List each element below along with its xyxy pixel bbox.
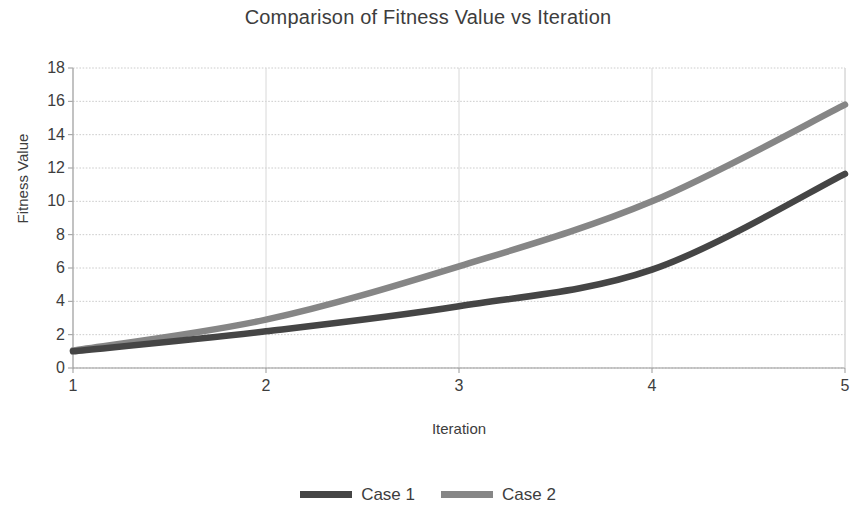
y-tick-label: 16 xyxy=(35,93,65,109)
y-tick-label: 2 xyxy=(35,327,65,343)
x-tick-label: 4 xyxy=(632,378,672,394)
plot-area xyxy=(73,68,845,368)
chart-container: Comparison of Fitness Value vs Iteration… xyxy=(0,0,856,511)
y-tick-label: 8 xyxy=(35,227,65,243)
x-tick-label: 2 xyxy=(246,378,286,394)
chart-legend: Case 1Case 2 xyxy=(0,486,856,503)
y-tick-label: 14 xyxy=(35,127,65,143)
y-tick-label: 0 xyxy=(35,360,65,376)
y-tick-label: 12 xyxy=(35,160,65,176)
gridlines xyxy=(68,68,845,373)
plot-svg xyxy=(73,68,845,368)
y-axis-tick-labels: 024681012141618 xyxy=(32,68,65,368)
x-tick-label: 5 xyxy=(825,378,856,394)
x-tick-label: 3 xyxy=(439,378,479,394)
y-tick-label: 4 xyxy=(35,293,65,309)
y-tick-label: 10 xyxy=(35,193,65,209)
legend-color-swatch xyxy=(300,491,352,498)
x-tick-label: 1 xyxy=(53,378,93,394)
chart-title: Comparison of Fitness Value vs Iteration xyxy=(0,6,856,29)
legend-item[interactable]: Case 2 xyxy=(441,486,556,503)
legend-item[interactable]: Case 1 xyxy=(300,486,415,503)
y-axis-title: Fitness Value xyxy=(14,109,31,249)
x-axis-title: Iteration xyxy=(73,420,845,437)
y-tick-label: 6 xyxy=(35,260,65,276)
legend-label: Case 2 xyxy=(502,486,556,503)
x-axis-tick-labels: 12345 xyxy=(73,378,845,398)
legend-label: Case 1 xyxy=(361,486,415,503)
legend-color-swatch xyxy=(441,491,493,498)
y-tick-label: 18 xyxy=(35,60,65,76)
